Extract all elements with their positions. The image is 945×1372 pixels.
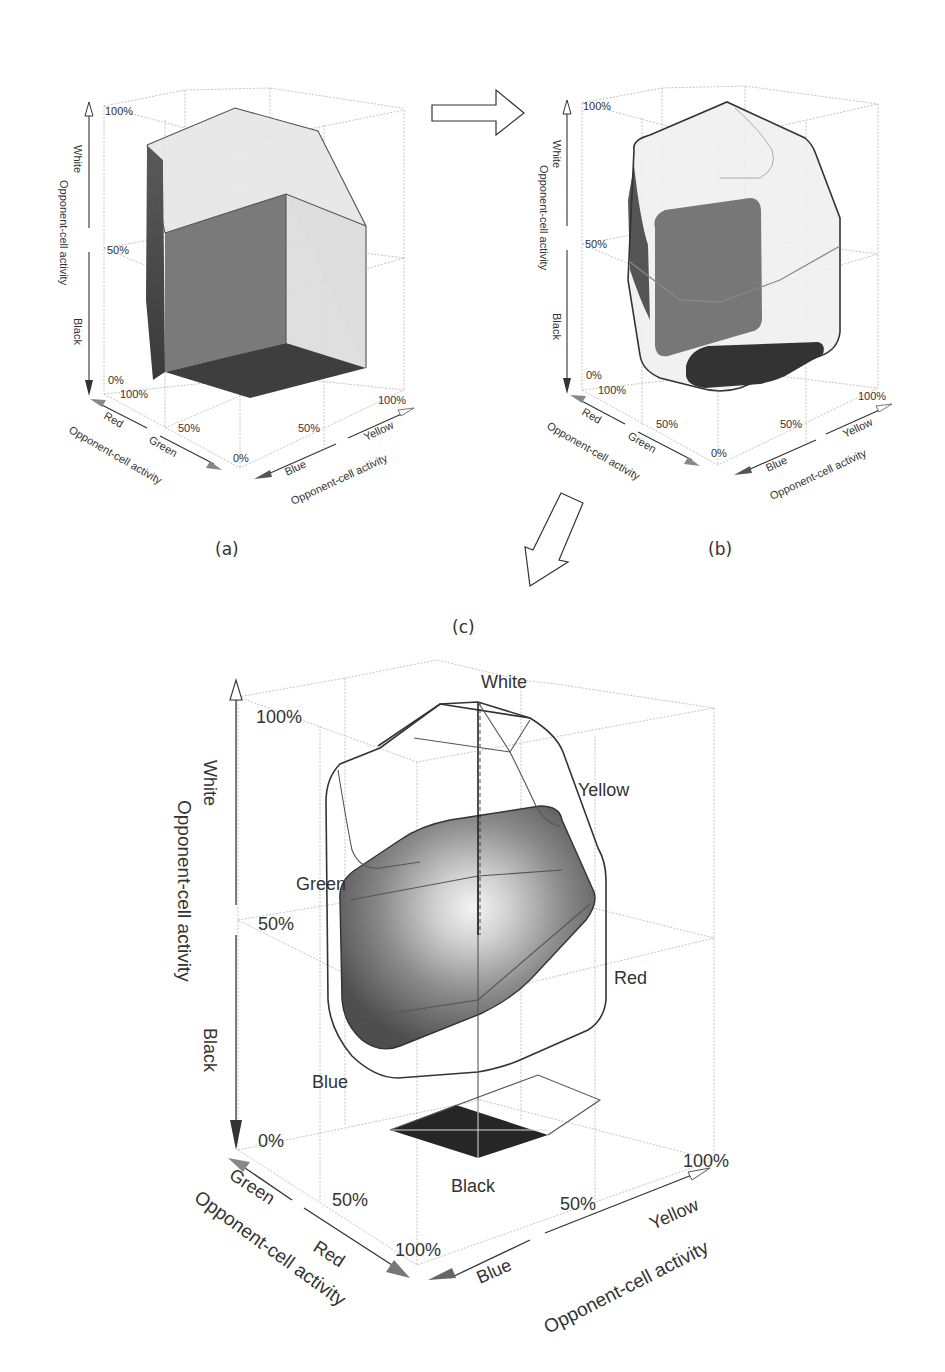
tick-left-50: 50% [656,418,678,430]
label-white: White [481,672,527,692]
label-black: Black [451,1176,496,1196]
axis-label-black: Black [200,1028,220,1073]
panel-b: White Black Opponent-cell activity 100% … [538,86,892,559]
axis-label-white: White [200,760,220,806]
axis-label-white: White [72,145,84,173]
axis-title-left: Opponent-cell activity [67,423,165,486]
tick-100: 100% [583,100,611,112]
panel-label-a: (a) [215,539,239,559]
gamut-solid-a [146,108,366,398]
axis-title-right: Opponent-cell activity [540,1236,712,1337]
axis-title-vertical: Opponent-cell activity [58,180,70,286]
axis-label-yellow: Yellow [362,419,396,443]
arrow-yellow-icon [876,404,892,412]
axis-label-blue: Blue [283,458,308,478]
panel-a: White Black Opponent-cell activity 100% … [58,88,414,559]
arrow-blue-icon [254,470,272,479]
arrow-down-black-icon [563,378,571,394]
tick-right-100: 100% [683,1151,729,1171]
tick-left-0: 0% [233,452,249,464]
axis-title-vertical: Opponent-cell activity [174,800,195,982]
axis-label-green: Green [626,429,658,455]
tick-left-100: 100% [120,388,148,400]
axis-title-vertical: Opponent-cell activity [538,165,550,271]
axis-label-black: Black [72,318,84,345]
arrow-up-white-icon [563,100,571,114]
axis-label-blue: Blue [473,1255,514,1288]
axis-title-left: Opponent-cell activity [545,419,643,482]
tick-left-100: 100% [395,1240,441,1260]
tick-left-50: 50% [178,422,200,434]
arrow-down-black-icon [230,1120,242,1150]
tick-50: 50% [258,914,294,934]
figure-canvas: White Black Opponent-cell activity 100% … [0,0,945,1372]
axis-label-yellow: Yellow [646,1194,702,1234]
left-axis-c: 50% 100% Green Red Opponent-cell activit… [191,1158,441,1310]
vertical-axis-b: White Black Opponent-cell activity 100% … [538,100,611,394]
right-axis-b: 50% 100% Blue Yellow Opponent-cell activ… [734,390,892,502]
flow-arrow-a-to-b-icon [432,90,524,135]
tick-50: 50% [585,238,607,250]
axis-label-black: Black [551,313,563,340]
tick-left-100: 100% [598,384,626,396]
label-green: Green [296,874,346,894]
tick-right-50: 50% [560,1194,596,1214]
arrow-down-black-icon [85,380,93,396]
label-blue: Blue [312,1072,348,1092]
flow-arrow-b-to-c-icon [525,493,583,586]
tick-0: 0% [258,1131,284,1151]
tick-right-50: 50% [780,418,802,430]
tick-right-50: 50% [298,422,320,434]
tick-right-100: 100% [858,390,886,402]
axis-title-right: Opponent-cell activity [289,451,390,507]
axis-label-blue: Blue [764,454,789,474]
left-axis-a: 100% 50% 0% Red Green Opponent-cell acti… [67,388,249,487]
arrow-up-white-icon [230,680,242,700]
axis-label-red: Red [310,1237,349,1272]
tick-left-50: 50% [332,1190,368,1210]
vertical-axis-a: White Black Opponent-cell activity 100% … [58,102,133,396]
label-red: Red [614,968,647,988]
axis-label-white: White [551,140,563,168]
gamut-solid-b [628,102,840,391]
arrow-blue-icon [734,466,752,475]
axis-label-red: Red [102,409,125,429]
tick-50: 50% [107,244,129,256]
gamut-solid-c [326,702,606,1158]
axis-label-red: Red [580,405,603,425]
arrow-up-white-icon [85,102,93,116]
arrow-green-icon [684,457,700,466]
tick-left-0: 0% [711,447,727,459]
tick-right-100: 100% [378,394,406,406]
panel-c: White Yellow Green Red Blue Black White … [174,660,729,1338]
arrow-blue-icon [428,1268,456,1280]
left-axis-b: 100% 50% 0% Red Green Opponent-cell acti… [545,384,727,483]
arrow-yellow-icon [398,408,414,416]
tick-0: 0% [586,369,602,381]
label-yellow: Yellow [578,780,630,800]
tick-0: 0% [108,374,124,386]
tick-100: 100% [256,707,302,727]
tick-100: 100% [105,105,133,117]
panel-label-b: (b) [708,539,732,559]
arrow-green-icon [206,461,222,470]
panel-label-c: (c) [452,617,475,637]
